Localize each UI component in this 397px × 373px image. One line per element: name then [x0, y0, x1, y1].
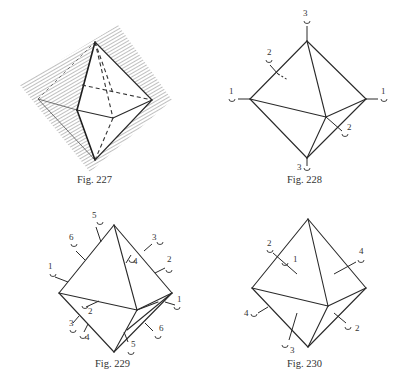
figure-228: 3 2 1 1 2 3 Fig. 228 — [200, 0, 397, 190]
rotation-arrow-icon — [174, 307, 180, 310]
figure-229: 5 6 1 3 2 4 1 2 3 4 5 6 Fig. 229 — [0, 190, 200, 373]
octahedron-axes-diagram: 3 2 1 1 2 3 — [200, 0, 397, 190]
axis-label-3-bottom: 3 — [69, 318, 74, 328]
octahedron-twofold-axes-diagram: 5 6 1 3 2 4 1 2 3 4 5 6 — [0, 190, 200, 373]
rotation-arrow-icon — [50, 274, 56, 277]
rotation-arrow-icon — [157, 242, 163, 245]
axis-label-1-left: 1 — [48, 261, 53, 271]
rotation-arrow-icon — [304, 168, 310, 171]
axis-label-3-right: 3 — [152, 232, 157, 242]
axis-label-4-left: 4 — [244, 308, 249, 318]
caption-fig-227: Fig. 227 — [77, 174, 112, 185]
axis-label-6-bottom: 6 — [159, 323, 164, 333]
axis-label-3-bottom: 3 — [290, 345, 295, 355]
rotation-arrow-icon — [266, 60, 272, 63]
figure-230: 2 1 4 4 3 2 Fig. 230 — [200, 190, 397, 373]
caption-fig-228: Fig. 228 — [287, 174, 322, 185]
rotation-arrow-icon — [267, 250, 273, 253]
axis-label-2-front: 2 — [88, 306, 93, 316]
axis-label-2-top: 2 — [267, 238, 272, 248]
rotation-arrow-icon — [282, 345, 288, 348]
rotation-arrow-icon — [97, 222, 103, 225]
rotation-arrow-icon — [155, 336, 161, 339]
axis-label-1-right: 1 — [381, 86, 386, 96]
axis-label-6-top: 6 — [69, 232, 74, 242]
axis-label-1-right: 1 — [177, 294, 182, 304]
rotation-arrow-icon — [128, 352, 134, 355]
axis-label-2-right: 2 — [167, 254, 172, 264]
axis-label-3-top: 3 — [303, 8, 308, 18]
rotation-arrow-icon — [166, 270, 172, 273]
axis-label-2-right: 2 — [355, 323, 360, 333]
rotation-arrow-icon — [251, 314, 257, 317]
rotation-arrow-icon — [70, 330, 76, 333]
axis-label-1-left: 1 — [229, 86, 234, 96]
axis-label-4-face: 4 — [133, 256, 138, 266]
rotation-arrow-icon — [71, 244, 77, 247]
caption-fig-229: Fig. 229 — [95, 358, 130, 369]
rotation-arrow-icon — [381, 99, 387, 102]
octahedron-with-plane-diagram — [0, 0, 200, 190]
rotation-arrow-icon — [229, 99, 235, 102]
figure-227: Fig. 227 — [0, 0, 200, 190]
axis-label-1-face: 1 — [293, 254, 298, 264]
axis-label-3-bottom: 3 — [297, 162, 302, 172]
axis-label-2-lower: 2 — [347, 122, 352, 132]
axis-label-2-upper: 2 — [267, 47, 272, 57]
rotation-arrow-icon — [358, 260, 364, 263]
caption-fig-230: Fig. 230 — [287, 358, 322, 369]
axis-label-5-top: 5 — [92, 210, 97, 220]
rotation-arrow-icon — [342, 134, 348, 137]
axis-label-5-bottom: 5 — [131, 339, 136, 349]
axis-label-4-right: 4 — [359, 246, 364, 256]
octahedron-threefold-axes-diagram: 2 1 4 4 3 2 — [200, 190, 397, 373]
rotation-arrow-icon — [304, 21, 310, 24]
rotation-arrow-icon — [345, 327, 351, 330]
